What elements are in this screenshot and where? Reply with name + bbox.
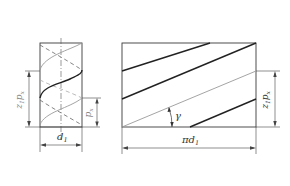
circumference-label: πd1 (181, 134, 199, 147)
arrow-right-icon (76, 143, 82, 146)
helix-line-reference (122, 71, 256, 127)
arrow-left-icon (40, 143, 46, 146)
development-outline (122, 43, 256, 127)
arrow-up-icon (273, 71, 276, 77)
arrow-up-icon (95, 98, 98, 104)
arrow-left-icon (122, 146, 128, 149)
svg-text:px: px (83, 108, 94, 118)
arrow-down-icon (27, 121, 31, 127)
worm-helix-diagram: z1px px d1 (0, 0, 290, 186)
arrow-right-icon (250, 146, 256, 149)
arrow-down-icon (170, 122, 173, 127)
diameter-label: d1 (57, 131, 68, 144)
arrow-down-icon (95, 122, 98, 128)
helix-line-dark-2 (122, 43, 256, 99)
cylinder-view: z1px px d1 (14, 38, 101, 152)
hidden-helix-1 (40, 45, 82, 70)
lead-angle-label: γ (175, 110, 181, 121)
lead-label-left: z1px (14, 91, 25, 110)
svg-text:z1px: z1px (14, 91, 25, 110)
development-view: γ z1px πd1 (122, 43, 280, 154)
lead-label-right: z1px (260, 91, 271, 110)
arrow-up-icon (27, 71, 31, 77)
arrow-down-icon (273, 121, 276, 127)
hidden-helix-3 (40, 100, 82, 125)
helix-line-dark-3 (190, 99, 256, 127)
helix-line-dark-1 (122, 43, 210, 71)
pitch-label: px (83, 108, 94, 118)
svg-text:z1px: z1px (260, 91, 271, 110)
